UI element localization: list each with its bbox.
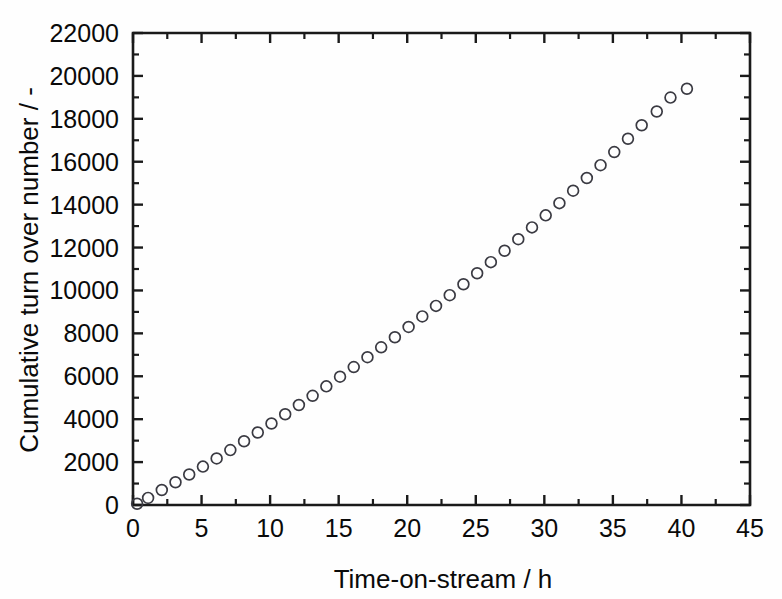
x-tick-label: 45 (736, 514, 764, 542)
y-tick-label: 10000 (49, 276, 119, 304)
data-point (156, 485, 167, 496)
data-point (184, 469, 195, 480)
x-tick-label: 10 (256, 514, 284, 542)
y-tick-label: 18000 (49, 105, 119, 133)
data-point (540, 210, 551, 221)
y-tick-label: 22000 (49, 19, 119, 47)
y-axis-title: Cumulative turn over number / - (14, 87, 44, 453)
data-point-markers (132, 83, 693, 509)
x-axis-ticks (133, 33, 750, 505)
data-point (403, 322, 414, 333)
y-axis-tick-labels: 0200040006000800010000120001400016000180… (49, 19, 119, 519)
data-point (472, 268, 483, 279)
y-tick-label: 0 (105, 491, 119, 519)
data-point (252, 427, 263, 438)
y-tick-label: 8000 (63, 319, 119, 347)
x-tick-label: 30 (530, 514, 558, 542)
data-point (280, 409, 291, 420)
data-point (609, 147, 620, 158)
y-tick-label: 16000 (49, 148, 119, 176)
data-point (417, 311, 428, 322)
data-point (636, 120, 647, 131)
data-point (348, 362, 359, 373)
data-point (581, 173, 592, 184)
x-tick-label: 0 (126, 514, 140, 542)
data-point (458, 279, 469, 290)
y-tick-label: 6000 (63, 362, 119, 390)
data-point (266, 418, 277, 429)
data-point (170, 477, 181, 488)
data-point (527, 222, 538, 233)
data-point (211, 453, 222, 464)
data-point (431, 301, 442, 312)
chart-figure: 051015202530354045 020004000600080001000… (0, 0, 782, 599)
scatter-plot: 051015202530354045 020004000600080001000… (0, 0, 782, 599)
data-point (294, 400, 305, 411)
data-point (513, 234, 524, 245)
data-point (444, 290, 455, 301)
data-point (485, 257, 496, 268)
x-axis-title: Time-on-stream / h (334, 564, 553, 594)
data-point (376, 342, 387, 353)
x-tick-label: 5 (195, 514, 209, 542)
data-point (623, 133, 634, 144)
x-tick-label: 35 (599, 514, 627, 542)
x-tick-label: 25 (462, 514, 490, 542)
axes-frame (133, 33, 750, 505)
data-point (389, 332, 400, 343)
data-point (568, 185, 579, 196)
data-point (595, 160, 606, 171)
data-point (362, 352, 373, 363)
data-point (651, 106, 662, 117)
data-point (225, 445, 236, 456)
x-axis-tick-labels: 051015202530354045 (126, 514, 764, 542)
data-point (682, 83, 693, 94)
y-axis-ticks (133, 33, 750, 505)
data-point (239, 436, 250, 447)
data-point (307, 390, 318, 401)
y-tick-label: 2000 (63, 448, 119, 476)
data-point (554, 198, 565, 209)
data-point (143, 493, 154, 504)
x-tick-label: 15 (325, 514, 353, 542)
x-tick-label: 40 (668, 514, 696, 542)
y-tick-label: 12000 (49, 234, 119, 262)
y-tick-label: 4000 (63, 405, 119, 433)
data-point (198, 461, 209, 472)
x-tick-label: 20 (393, 514, 421, 542)
y-tick-label: 14000 (49, 191, 119, 219)
data-point (335, 371, 346, 382)
data-point (321, 381, 332, 392)
data-point (499, 245, 510, 256)
data-point (665, 92, 676, 103)
y-tick-label: 20000 (49, 62, 119, 90)
